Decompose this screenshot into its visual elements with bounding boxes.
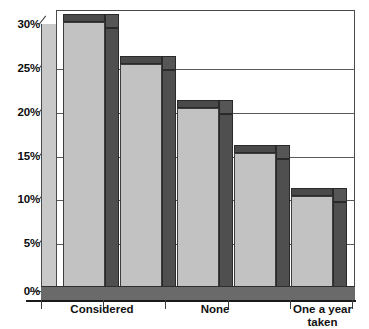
bar-side-face-4 (276, 159, 290, 287)
bar-top-strip-3 (177, 100, 219, 108)
bar-side-face-5 (333, 202, 347, 287)
bar-2 (120, 0, 162, 325)
bar-considered (63, 0, 105, 325)
bar-top-strip-2 (120, 56, 162, 64)
x-axis-label-one-a-year-taken: One a year taken (276, 303, 369, 329)
y-tick-label-25: 25% (18, 62, 40, 74)
y-tick-label-30: 30% (18, 18, 40, 30)
bar-none (177, 0, 219, 325)
bar-side-face-1 (105, 28, 119, 287)
bar-side-face-2 (162, 70, 176, 287)
bar-top-face-4 (276, 145, 290, 159)
x-axis-label-none: None (160, 303, 270, 316)
bar-top-face-5 (333, 188, 347, 202)
bar-top-strip-1 (63, 14, 105, 22)
y-tick-label-10: 10% (18, 193, 40, 205)
x-axis-baseline (26, 300, 356, 302)
bar-front-face-2 (120, 64, 162, 287)
bar-top-face-2 (162, 56, 176, 70)
x-axis-label-considered: Considered (42, 303, 162, 316)
bar-front-face-3 (177, 108, 219, 287)
y-tick-label-20: 20% (18, 106, 40, 118)
y-axis: 30% 25% 20% 15% 10% 5% 0% (0, 0, 40, 325)
bar-top-strip-4 (234, 145, 276, 153)
y-tick-label-15: 15% (18, 150, 40, 162)
bar-top-face-3 (219, 100, 233, 114)
bar-top-strip-5 (291, 188, 333, 196)
bar-front-face-4 (234, 153, 276, 287)
bar-side-face-3 (219, 114, 233, 287)
bar-4 (234, 0, 276, 325)
chart-floor (41, 286, 355, 301)
bar-front-face-1 (63, 22, 105, 287)
bar-front-face-5 (291, 196, 333, 287)
bar-top-face-1 (105, 14, 119, 28)
bar-one-a-year-taken (291, 0, 333, 325)
